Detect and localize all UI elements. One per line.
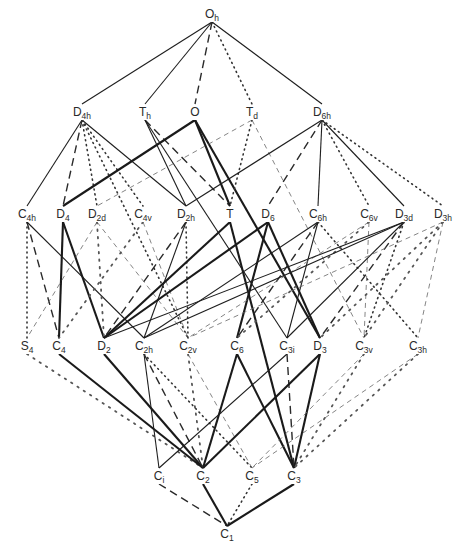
edge-oh-o — [195, 22, 212, 104]
edge-d6h-d6 — [268, 120, 322, 206]
edge-o-d4 — [63, 120, 195, 206]
edge-c3i-ci — [159, 354, 287, 468]
edge-th-t — [145, 120, 230, 206]
edge-c4h-c4 — [27, 222, 59, 338]
edge-t-d2 — [104, 222, 230, 338]
edge-c3h-c3 — [294, 354, 418, 468]
edge-c2-c1 — [203, 484, 227, 526]
edge-c3-c1 — [227, 484, 294, 526]
node-t: T — [226, 207, 234, 221]
edge-d4h-d4 — [63, 120, 82, 206]
edge-c2v-c2 — [188, 354, 203, 468]
edge-c4-c2 — [59, 354, 203, 468]
node-o: O — [190, 105, 199, 119]
edge-d3d-d2 — [104, 222, 404, 338]
edge-td-t — [230, 120, 252, 206]
edge-oh-th — [145, 22, 212, 104]
edge-d3h-c3h — [418, 222, 443, 338]
edge-o-t — [195, 120, 230, 206]
edge-d6h-d2h — [186, 120, 322, 206]
edge-oh-td — [212, 22, 252, 104]
edge-c6-c3 — [237, 354, 294, 468]
edge-c6v-c2v — [188, 222, 369, 338]
edge-d6h-d3d — [322, 120, 404, 206]
edge-d3d-d3 — [320, 222, 404, 338]
edge-d6h-c6v — [322, 120, 369, 206]
edge-d3d-c3i — [287, 222, 404, 338]
edge-d4-d2 — [63, 222, 104, 338]
edge-d3h-c2v — [188, 222, 443, 338]
edge-oh-d4h — [82, 22, 212, 104]
edge-d2h-d2 — [104, 222, 186, 338]
edge-c3v-c3 — [294, 354, 364, 468]
edge-d6h-d3h — [322, 120, 443, 206]
edge-d4h-c4h — [27, 120, 82, 206]
edge-th-d2h — [145, 120, 186, 206]
subgroup-lattice-diagram: OhD4hThOTdD6hC4hD4D2dC4vD2hTD6C6hC6vD3dD… — [0, 0, 467, 554]
edge-d3d-c2h — [144, 222, 404, 338]
edge-c4h-c2h — [27, 222, 144, 338]
edge-d6-d2 — [104, 222, 268, 338]
edges-layer — [27, 22, 443, 526]
edge-c5-c1 — [227, 484, 252, 526]
edge-c3h-c5 — [252, 354, 418, 468]
edge-oh-d6h — [212, 22, 322, 104]
edge-d3h-d3 — [320, 222, 443, 338]
edge-ci-c1 — [159, 484, 227, 526]
edge-d3d-c3v — [364, 222, 404, 338]
edge-d3-c3 — [294, 354, 320, 468]
edge-d6h-c6h — [318, 120, 322, 206]
edge-c2h-ci — [144, 354, 159, 468]
edge-s4-c2 — [27, 354, 203, 468]
